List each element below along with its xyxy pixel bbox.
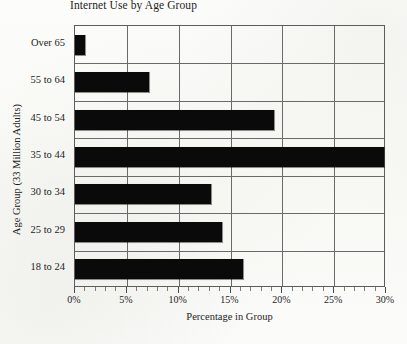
x-axis-title: Percentage in Group xyxy=(74,311,385,322)
x-axis-minor-tick xyxy=(95,287,96,291)
y-axis-tick-label: 55 to 64 xyxy=(31,74,65,85)
y-axis-tick-label: 30 to 34 xyxy=(31,186,65,197)
x-axis-minor-tick xyxy=(209,287,210,291)
x-axis-tick-label: 10% xyxy=(168,294,186,305)
x-axis-major-tick xyxy=(126,287,127,293)
x-axis-minor-tick xyxy=(354,287,355,291)
y-axis-tick-label: 45 to 54 xyxy=(31,112,65,123)
x-axis-minor-tick xyxy=(147,287,148,291)
x-axis-minor-tick xyxy=(136,287,137,291)
x-axis-minor-tick xyxy=(323,287,324,291)
bar-row xyxy=(75,63,384,100)
bar-row xyxy=(75,138,384,175)
y-axis-tick-label: Over 65 xyxy=(31,37,65,48)
x-axis-minor-tick xyxy=(302,287,303,291)
bar-chart-figure: Internet Use by Age Group Over 6555 to 6… xyxy=(0,0,407,344)
plot-area xyxy=(74,25,385,287)
bar xyxy=(75,147,384,167)
x-axis-minor-tick xyxy=(250,287,251,291)
x-axis-major-tick xyxy=(281,287,282,293)
y-axis-title: Age Group (33 Million Adults) xyxy=(11,70,22,270)
bar xyxy=(75,184,211,204)
x-axis-minor-tick xyxy=(240,287,241,291)
x-axis-minor-tick xyxy=(188,287,189,291)
x-axis-tick-label: 5% xyxy=(119,294,132,305)
x-axis-major-tick xyxy=(178,287,179,293)
x-axis-minor-tick xyxy=(261,287,262,291)
chart-title: Internet Use by Age Group xyxy=(70,0,197,11)
bar-row xyxy=(75,213,384,250)
x-axis-minor-tick xyxy=(84,287,85,291)
x-axis-tick-label: 0% xyxy=(67,294,80,305)
bar xyxy=(75,72,149,92)
bar-row xyxy=(75,176,384,213)
bar-row xyxy=(75,251,384,288)
bar-row xyxy=(75,26,384,63)
bar xyxy=(75,222,222,242)
y-axis-tick-label: 25 to 29 xyxy=(31,224,65,235)
x-axis-minor-tick xyxy=(344,287,345,291)
x-axis-tick-label: 20% xyxy=(272,294,290,305)
x-axis-major-tick xyxy=(385,287,386,293)
x-axis-major-tick xyxy=(333,287,334,293)
x-axis-minor-tick xyxy=(292,287,293,291)
y-axis-tick-label: 35 to 44 xyxy=(31,149,65,160)
bar-row xyxy=(75,101,384,138)
bar xyxy=(75,110,274,130)
x-axis-minor-tick xyxy=(271,287,272,291)
x-axis-minor-tick xyxy=(167,287,168,291)
bar xyxy=(75,35,85,55)
x-axis-minor-tick xyxy=(364,287,365,291)
x-axis-tick-label: 15% xyxy=(220,294,238,305)
x-axis: Percentage in Group 0%5%10%15%20%25%30% xyxy=(74,287,385,327)
x-axis-minor-tick xyxy=(157,287,158,291)
x-axis-major-tick xyxy=(230,287,231,293)
x-axis-minor-tick xyxy=(375,287,376,291)
x-axis-minor-tick xyxy=(105,287,106,291)
x-axis-tick-label: 25% xyxy=(324,294,342,305)
x-axis-major-tick xyxy=(74,287,75,293)
x-axis-tick-label: 30% xyxy=(376,294,394,305)
y-axis-tick-label: 18 to 24 xyxy=(31,261,65,272)
x-axis-minor-tick xyxy=(115,287,116,291)
bar xyxy=(75,259,243,279)
x-axis-minor-tick xyxy=(219,287,220,291)
x-axis-minor-tick xyxy=(312,287,313,291)
x-axis-minor-tick xyxy=(198,287,199,291)
